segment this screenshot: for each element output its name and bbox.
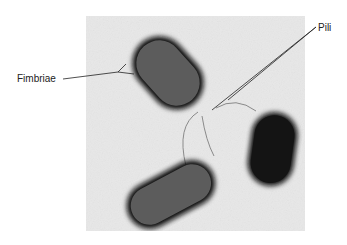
label-pili: Pili: [318, 22, 331, 33]
label-fimbriae: Fimbriae: [17, 73, 56, 84]
fimbriae-leader: [63, 72, 118, 79]
leader-lines: [0, 0, 347, 245]
